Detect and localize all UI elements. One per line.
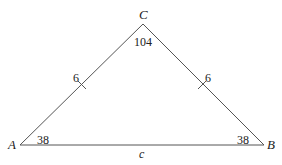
angle-label-b: 38 — [237, 133, 249, 147]
side-label-bc: 6 — [205, 71, 211, 85]
side-label-ab: c — [139, 147, 145, 161]
angle-label-a: 38 — [37, 133, 49, 147]
tick-mark-ac — [78, 81, 86, 89]
side-label-ac: 6 — [73, 71, 79, 85]
vertex-label-c: C — [139, 7, 148, 22]
vertex-label-a: A — [7, 137, 16, 152]
angle-label-c: 104 — [134, 35, 152, 49]
vertex-label-b: B — [267, 137, 275, 152]
triangle-diagram: C 104 A 38 B 38 6 6 c — [0, 0, 282, 165]
